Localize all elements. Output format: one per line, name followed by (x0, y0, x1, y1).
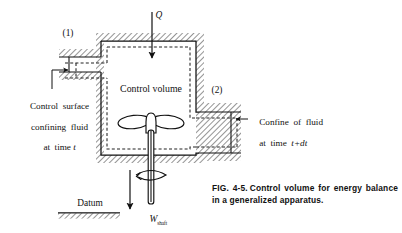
control-surface-line-1: Control surface (30, 101, 89, 111)
control-volume-label: Control volume (108, 84, 194, 95)
datum-label: Datum (62, 198, 118, 209)
outlet-station-label: (2) (206, 85, 228, 96)
figure-number: FIG. 4-5. (212, 183, 248, 193)
control-surface-line-2: confining fluid (31, 122, 88, 132)
heat-input-label: Q (146, 0, 160, 31)
shaft-work-label: Wshaft (140, 203, 186, 233)
control-surface-line-3: at time (43, 142, 73, 152)
shaft-work-subscript: shaft (157, 219, 167, 225)
datum-line (58, 213, 120, 219)
confine-line-1: Confine of fluid (259, 117, 323, 127)
confine-of-fluid-label: Confine of fluid at time t+dt (250, 107, 358, 158)
confine-time: t+dt (291, 138, 307, 148)
figure-container: Q (1) (2) Control volume Control surface… (0, 0, 402, 233)
control-surface-label: Control surface confining fluid at time … (2, 91, 108, 163)
control-surface-time: t (73, 142, 76, 152)
figure-caption: FIG. 4-5.Control volume for energy balan… (212, 183, 398, 207)
inlet-station-label: (1) (57, 28, 79, 39)
shaft (148, 130, 154, 204)
confine-line-2: at time (259, 138, 291, 148)
